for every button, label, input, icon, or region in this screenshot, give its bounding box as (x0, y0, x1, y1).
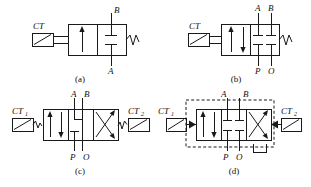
panel-c-actuator-left (12, 118, 42, 131)
panel-a-box-right-blocked (105, 24, 117, 55)
spring-right (118, 121, 127, 129)
cross-arrow-2-shaft (96, 112, 113, 136)
panel-d-actuator-left-label: CT (158, 106, 170, 116)
arrow-down-head (211, 132, 216, 138)
pilot-triangle-left (189, 121, 196, 129)
panel-c-box-left-arrows (47, 111, 63, 138)
port-A-elbow (74, 109, 82, 119)
panel-b-port-top-label-1: A (254, 3, 261, 13)
panel-a-box-left-arrow-up (79, 26, 84, 52)
panel-c-caption: (c) (75, 166, 85, 176)
panel-d-drain-bracket (253, 144, 266, 152)
panel-b-spring-return (279, 35, 292, 45)
panel-d-actuator-right-sub: 2 (294, 111, 297, 117)
arrow-up-head (228, 26, 233, 32)
panel-c: CT 1 (12, 89, 149, 176)
panel-b-actuator-left (188, 33, 221, 46)
panel-d-port-top-label-2: B (243, 89, 249, 99)
arrow-head (79, 26, 84, 32)
panel-c-port-bottom-label-1: P (69, 152, 76, 162)
cross-arrow-2-head (110, 133, 115, 139)
panel-b-box-right-blocked (253, 24, 276, 55)
panel-c-actuator-left-sub: 1 (25, 111, 28, 117)
panel-d-actuator-left-sub: 1 (171, 111, 174, 117)
drain-bracket-path (253, 144, 266, 152)
solenoid-diagonal-left (168, 120, 184, 130)
panel-a-port-top-label: B (114, 5, 120, 15)
solenoid-diagonal-right (283, 120, 299, 130)
solenoid-diagonal (34, 35, 51, 45)
panel-b-port-bottom-label-2: O (268, 66, 275, 76)
cross-arrow-1-head (110, 110, 115, 116)
panel-b-actuator-left-label: CT (189, 21, 201, 31)
valve-body (43, 109, 118, 140)
panel-c-port-top-label-2: B (84, 89, 90, 99)
panel-b: CT A B P O (188, 3, 292, 84)
spring-zigzag (279, 35, 292, 45)
panel-d-port-bottom-label-2: O (236, 152, 243, 162)
solenoid-diagonal (190, 35, 207, 45)
cross-arrow-1-shaft (96, 113, 113, 137)
solenoid-diagonal-left (14, 120, 31, 130)
cross-arrow-1-head (263, 110, 268, 116)
spring-left (33, 121, 42, 128)
panel-b-box-left-arrows (228, 26, 245, 53)
panel-c-box-right-crossed (96, 110, 115, 139)
arrow-up-head (47, 111, 52, 117)
arrow-down-head (240, 47, 245, 53)
panel-d-box-center-blocked (223, 109, 244, 140)
panel-c-actuator-right (118, 118, 149, 131)
solenoid-diagonal-right (130, 120, 147, 130)
panel-c-port-bottom-label-2: O (83, 152, 90, 162)
panel-d-box-right-crossed (249, 110, 268, 139)
panel-a-port-bottom-label: A (107, 66, 114, 76)
panel-c-port-top-label-1: A (70, 89, 77, 99)
panel-a-spring-return (126, 35, 139, 45)
panel-b-caption: (b) (231, 74, 242, 84)
panel-c-actuator-left-label: CT (12, 106, 24, 116)
panel-d-caption: (d) (229, 166, 240, 176)
panel-a: CT B A (a) (32, 5, 139, 84)
panel-c-actuator-right-sub: 2 (141, 111, 144, 117)
panel-b-port-top-label-2: B (268, 3, 274, 13)
panel-d-valve-envelope (196, 109, 271, 140)
arrow-up-head (200, 111, 205, 117)
panel-a-actuator-left-label: CT (33, 21, 45, 31)
panel-d: CT 1 (158, 89, 301, 176)
cross-arrow-1-shaft (249, 113, 266, 137)
panel-d-actuator-left (166, 118, 196, 131)
figure-root: CT B A (a) (0, 0, 311, 187)
panel-c-actuator-right-label: CT (128, 106, 140, 116)
cross-arrow-2-shaft (249, 112, 266, 136)
valve-symbol-diagram: CT B A (a) (0, 0, 311, 187)
panel-b-port-bottom-label-1: P (254, 66, 261, 76)
panel-d-actuator-right (271, 118, 301, 131)
panel-a-actuator-left (32, 33, 68, 46)
arrow-down-head (58, 132, 63, 138)
spring-zigzag (126, 35, 139, 45)
panel-a-valve-envelope (68, 24, 126, 55)
panel-b-valve-envelope (221, 24, 279, 55)
panel-c-valve-envelope (43, 109, 118, 140)
panel-a-caption: (a) (75, 74, 85, 84)
cross-arrow-2-head (263, 133, 268, 139)
panel-c-box-center (70, 109, 83, 140)
panel-d-port-bottom-label-1: P (222, 152, 229, 162)
valve-body (196, 109, 271, 140)
panel-d-actuator-right-label: CT (281, 106, 293, 116)
panel-d-port-top-label-1: A (220, 89, 227, 99)
panel-d-box-left-arrows (200, 111, 216, 138)
